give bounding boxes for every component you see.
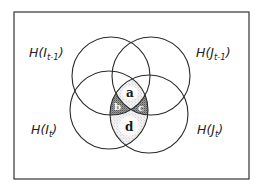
label-h-i-t-minus-1: H(It-1) xyxy=(29,45,64,62)
region-b-label: b xyxy=(114,101,121,112)
region-c-label: c xyxy=(138,102,144,113)
label-h-i-t: H(It) xyxy=(31,122,57,139)
circle-h-j-t-minus-1 xyxy=(112,37,190,115)
label-h-j-t: H(Jt) xyxy=(197,122,223,139)
region-d-label: d xyxy=(125,120,134,134)
region-a-label: a xyxy=(126,86,134,100)
label-h-j-t-minus-1: H(Jt-1) xyxy=(196,45,231,62)
venn-diagram: a b c d H(It-1) H(Jt-1) H(It) H(Jt) xyxy=(0,0,263,188)
